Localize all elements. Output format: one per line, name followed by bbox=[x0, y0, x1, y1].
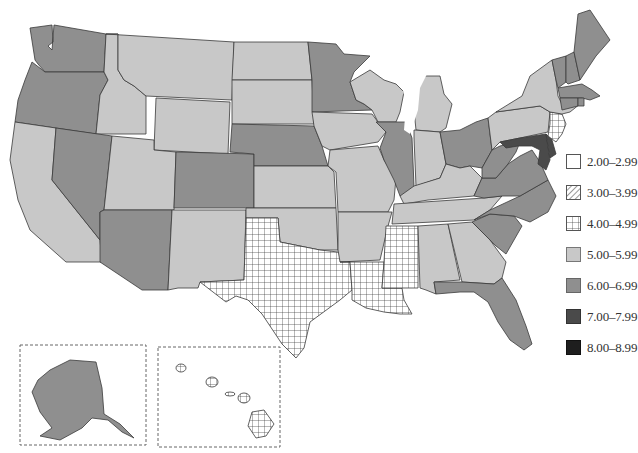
legend: 2.00–2.99 3.00–3.99 4.00–4.99 5.00–5.99 … bbox=[566, 146, 638, 363]
state-nm bbox=[168, 210, 246, 290]
state-ak bbox=[32, 360, 134, 440]
hawaii-maui bbox=[238, 393, 250, 403]
state-ks bbox=[254, 166, 336, 208]
state-az bbox=[100, 210, 172, 290]
legend-label: 5.00–5.99 bbox=[587, 247, 637, 263]
legend-swatch-dark bbox=[566, 309, 581, 324]
hawaii-oahu bbox=[206, 377, 218, 387]
legend-swatch-darkest bbox=[566, 340, 581, 355]
us-choropleth-map bbox=[0, 0, 638, 453]
state-ri bbox=[578, 98, 584, 106]
legend-swatch-light bbox=[566, 247, 581, 262]
legend-item-3: 3.00–3.99 bbox=[566, 177, 638, 208]
state-ms bbox=[382, 226, 418, 288]
state-wy bbox=[154, 98, 230, 154]
legend-item-7: 7.00–7.99 bbox=[566, 301, 638, 332]
hawaii-molokai bbox=[225, 392, 235, 396]
state-nd bbox=[232, 42, 312, 80]
state-wa bbox=[30, 25, 106, 72]
state-or bbox=[15, 62, 108, 134]
state-fl bbox=[434, 278, 532, 350]
state-me bbox=[574, 10, 610, 80]
state-sd bbox=[232, 80, 314, 124]
state-oh bbox=[440, 118, 492, 168]
legend-label: 6.00–6.99 bbox=[587, 278, 637, 294]
legend-item-5: 5.00–5.99 bbox=[566, 239, 638, 270]
legend-swatch-grid bbox=[566, 216, 581, 231]
legend-label: 3.00–3.99 bbox=[587, 185, 637, 201]
legend-swatch-hatch bbox=[566, 185, 581, 200]
legend-label: 8.00–8.99 bbox=[587, 340, 637, 356]
state-ia bbox=[312, 112, 386, 150]
hawaii-big-island bbox=[248, 410, 274, 438]
legend-swatch-medium bbox=[566, 278, 581, 293]
legend-label: 4.00–4.99 bbox=[587, 216, 637, 232]
state-nj bbox=[548, 112, 566, 142]
hawaii-kauai bbox=[176, 364, 186, 372]
legend-item-6: 6.00–6.99 bbox=[566, 270, 638, 301]
state-ar bbox=[338, 212, 392, 262]
legend-label: 7.00–7.99 bbox=[587, 309, 637, 325]
legend-swatch-blank bbox=[566, 154, 581, 169]
legend-label: 2.00–2.99 bbox=[587, 154, 637, 170]
state-co bbox=[174, 152, 254, 208]
legend-item-4: 4.00–4.99 bbox=[566, 208, 638, 239]
legend-item-8: 8.00–8.99 bbox=[566, 332, 638, 363]
legend-item-2: 2.00–2.99 bbox=[566, 146, 638, 177]
